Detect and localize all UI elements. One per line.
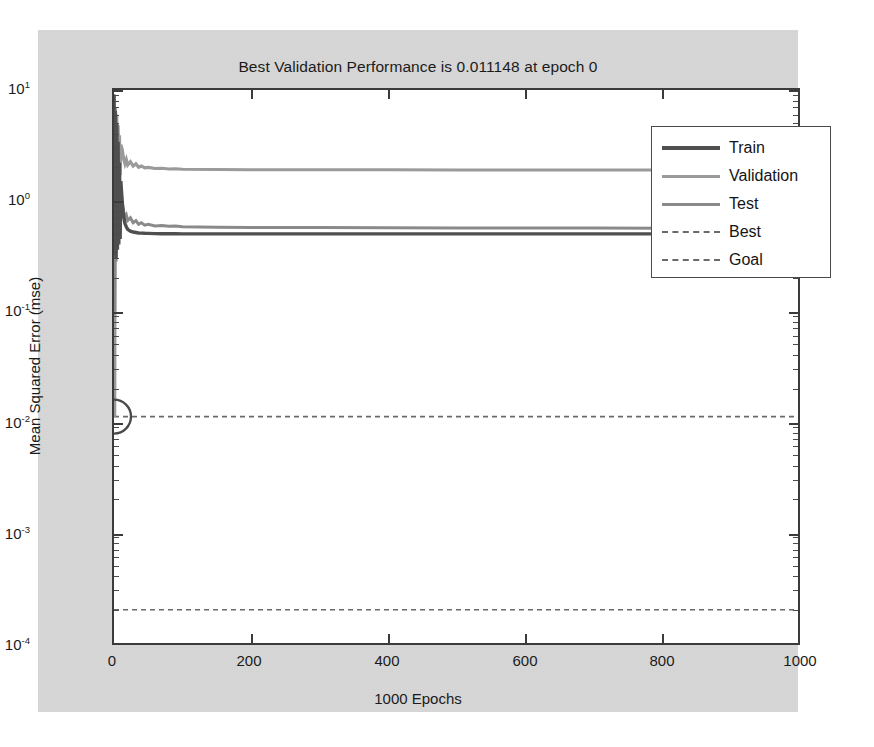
x-tick-label-1000: 1000 bbox=[783, 652, 816, 669]
x-axis-title: 1000 Epochs bbox=[38, 690, 798, 707]
y-tick-label-1e1: 101 bbox=[8, 79, 30, 97]
legend-item-validation: Validation bbox=[652, 162, 830, 190]
y-major-tick-left-1e-1 bbox=[114, 312, 123, 314]
y-minor-tick-left bbox=[114, 389, 119, 390]
legend-swatch-goal bbox=[662, 259, 720, 261]
legend-item-train: Train bbox=[652, 134, 830, 162]
y-minor-tick-right bbox=[793, 389, 798, 390]
y-minor-tick-left bbox=[114, 610, 119, 611]
y-minor-tick-left bbox=[114, 369, 119, 370]
matlab-figure-panel: Best Validation Performance is 0.011148 … bbox=[38, 30, 798, 712]
y-minor-tick-left bbox=[114, 355, 119, 356]
legend-item-best: Best bbox=[652, 218, 830, 246]
y-minor-tick-right bbox=[793, 355, 798, 356]
y-minor-tick-left bbox=[114, 101, 119, 102]
y-minor-tick-right bbox=[793, 480, 798, 481]
y-minor-tick-right bbox=[793, 369, 798, 370]
y-minor-tick-left bbox=[114, 537, 119, 538]
y-minor-tick-left bbox=[114, 234, 119, 235]
y-minor-tick-left bbox=[114, 95, 119, 96]
y-minor-tick-left bbox=[114, 278, 119, 279]
legend-label-best: Best bbox=[729, 224, 761, 240]
x-major-tick-800 bbox=[662, 634, 664, 643]
y-minor-tick-right bbox=[793, 566, 798, 567]
y-minor-tick-left bbox=[114, 316, 119, 317]
plot-legend: Train Validation Test Best Goal bbox=[651, 126, 831, 278]
y-minor-tick-right bbox=[793, 466, 798, 467]
y-minor-tick-left bbox=[114, 107, 119, 108]
x-major-tick-top-600 bbox=[525, 90, 527, 99]
y-tick-label-1e-1: 10-1 bbox=[5, 301, 30, 319]
x-major-tick-400 bbox=[388, 634, 390, 643]
y-minor-tick-left bbox=[114, 258, 119, 259]
x-tick-label-600: 600 bbox=[512, 652, 537, 669]
y-minor-tick-left bbox=[114, 225, 119, 226]
y-minor-tick-right bbox=[793, 123, 798, 124]
legend-swatch-validation bbox=[662, 175, 720, 178]
legend-label-validation: Validation bbox=[729, 168, 798, 184]
x-tick-label-0: 0 bbox=[108, 652, 116, 669]
y-minor-tick-right bbox=[793, 550, 798, 551]
y-minor-tick-right bbox=[793, 537, 798, 538]
y-minor-tick-right bbox=[793, 344, 798, 345]
y-minor-tick-left bbox=[114, 427, 119, 428]
legend-label-train: Train bbox=[729, 140, 765, 156]
x-tick-label-200: 200 bbox=[236, 652, 261, 669]
y-major-tick-right-1e1 bbox=[789, 90, 798, 92]
y-minor-tick-left bbox=[114, 328, 119, 329]
y-minor-tick-left bbox=[114, 167, 119, 168]
y-minor-tick-right bbox=[793, 95, 798, 96]
y-minor-tick-right bbox=[793, 455, 798, 456]
y-minor-tick-left bbox=[114, 576, 119, 577]
y-minor-tick-right bbox=[793, 433, 798, 434]
x-major-tick-600 bbox=[525, 634, 527, 643]
y-tick-label-1e-2: 10-2 bbox=[5, 413, 30, 431]
y-major-tick-left-1e1 bbox=[114, 90, 123, 92]
y-minor-tick-right bbox=[793, 576, 798, 577]
y-minor-tick-right bbox=[793, 446, 798, 447]
x-major-tick-top-800 bbox=[662, 90, 664, 99]
legend-label-test: Test bbox=[729, 196, 758, 212]
legend-label-goal: Goal bbox=[729, 252, 763, 268]
y-major-tick-right-1e-4 bbox=[789, 643, 798, 645]
y-major-tick-right-1e-3 bbox=[789, 534, 798, 536]
x-major-tick-top-200 bbox=[251, 90, 253, 99]
y-minor-tick-left bbox=[114, 480, 119, 481]
y-minor-tick-left bbox=[114, 466, 119, 467]
y-minor-tick-left bbox=[114, 557, 119, 558]
y-major-tick-left-1e-2 bbox=[114, 423, 123, 425]
y-major-tick-left-1e-3 bbox=[114, 534, 123, 536]
x-tick-label-800: 800 bbox=[649, 652, 674, 669]
y-minor-tick-right bbox=[793, 107, 798, 108]
page-title: Best Validation Performance is 0.011148 … bbox=[38, 58, 798, 76]
y-minor-tick-left bbox=[114, 550, 119, 551]
y-axis-title: Mean Squared Error (mse) bbox=[26, 206, 43, 526]
y-minor-tick-left bbox=[114, 499, 119, 500]
y-major-tick-left-1e0 bbox=[114, 201, 123, 203]
x-major-tick-200 bbox=[251, 634, 253, 643]
legend-swatch-best bbox=[662, 231, 720, 233]
y-minor-tick-right bbox=[793, 439, 798, 440]
y-minor-tick-right bbox=[793, 590, 798, 591]
x-tick-label-400: 400 bbox=[374, 652, 399, 669]
y-minor-tick-left bbox=[114, 211, 119, 212]
y-minor-tick-right bbox=[793, 101, 798, 102]
y-minor-tick-right bbox=[793, 336, 798, 337]
legend-swatch-train bbox=[662, 146, 720, 150]
y-minor-tick-right bbox=[793, 610, 798, 611]
y-minor-tick-left bbox=[114, 134, 119, 135]
x-major-tick-top-400 bbox=[388, 90, 390, 99]
legend-item-goal: Goal bbox=[652, 246, 830, 274]
y-minor-tick-right bbox=[793, 316, 798, 317]
y-minor-tick-left bbox=[114, 206, 119, 207]
y-minor-tick-left bbox=[114, 455, 119, 456]
y-minor-tick-right bbox=[793, 557, 798, 558]
y-minor-tick-left bbox=[114, 590, 119, 591]
y-minor-tick-left bbox=[114, 344, 119, 345]
y-tick-label-1e0: 100 bbox=[8, 190, 30, 208]
y-minor-tick-left bbox=[114, 543, 119, 544]
y-minor-tick-left bbox=[114, 566, 119, 567]
y-minor-tick-left bbox=[114, 322, 119, 323]
y-major-tick-right-1e-1 bbox=[789, 312, 798, 314]
legend-swatch-test bbox=[662, 203, 720, 206]
